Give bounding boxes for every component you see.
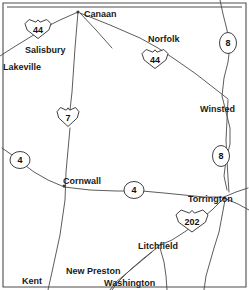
route-number-label: 4: [131, 185, 136, 195]
map-background: [0, 0, 249, 290]
city-label-lakeville: Lakeville: [3, 62, 41, 72]
route-number-label: 8: [218, 151, 223, 161]
city-label-salisbury: Salisbury: [25, 45, 66, 55]
city-label-winsted: Winsted: [200, 104, 235, 114]
route-number-label: 44: [150, 55, 160, 65]
route-number-label: 8: [225, 38, 230, 48]
city-label-new-preston: New Preston: [66, 266, 121, 276]
route-number-label: 7: [65, 113, 70, 123]
route-number-label: 4: [17, 155, 22, 165]
city-label-norfolk: Norfolk: [148, 34, 180, 44]
city-label-canaan: Canaan: [84, 9, 117, 19]
city-label-litchfield: Litchfield: [138, 241, 178, 251]
city-label-cornwall: Cornwall: [63, 176, 101, 186]
route-marker-4-5: 4: [10, 152, 30, 169]
junction-dot-0: [76, 10, 79, 13]
route-marker-8-4: 8: [213, 146, 230, 167]
route-marker-4-6: 4: [124, 182, 144, 199]
route-number-label: 44: [33, 25, 43, 35]
map-container: 444487844202 CanaanNorfolkSalisburyLakev…: [0, 0, 249, 290]
route-marker-8-2: 8: [220, 33, 237, 54]
city-label-torrington: Torrington: [188, 194, 233, 204]
city-label-kent: Kent: [22, 276, 42, 286]
route-number-label: 202: [184, 217, 199, 227]
map-canvas: 444487844202 CanaanNorfolkSalisburyLakev…: [0, 0, 249, 290]
